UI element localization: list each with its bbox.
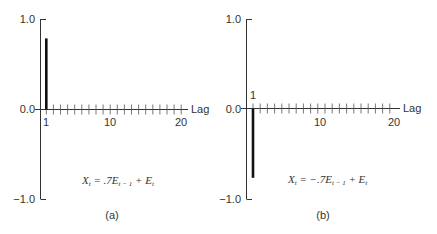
formula-a: Xt = .7Et − 1 + Et xyxy=(81,174,155,188)
caption-b: (b) xyxy=(316,209,329,221)
ytick-b-bot: −1.0 xyxy=(219,193,241,205)
xtick-b-10: 10 xyxy=(314,116,326,128)
ytick-a-top: 1.0 xyxy=(20,13,35,25)
xtick-a-1: 1 xyxy=(43,116,49,128)
ytick-a-bot: −1.0 xyxy=(13,193,35,205)
xlabel-b: Lag xyxy=(403,102,421,114)
caption-a: (a) xyxy=(105,209,118,221)
ytick-b-mid: 0.0 xyxy=(226,103,241,115)
panel-a: 1.0 0.0 −1.0 Lag 1 10 20 Xt = .7Et − 1 +… xyxy=(13,13,209,221)
xtick-b-20: 20 xyxy=(388,116,400,128)
formula-b: Xt = −.7Et − 1 + Et xyxy=(287,173,368,187)
xtick-a-20: 20 xyxy=(175,116,187,128)
xtick-a-10: 10 xyxy=(104,116,116,128)
panel-b: 1.0 0.0 −1.0 Lag 1 10 20 Xt = −.7Et − 1 … xyxy=(219,13,421,221)
ytick-a-mid: 0.0 xyxy=(20,103,35,115)
acf-bar-b-lag1 xyxy=(252,109,255,178)
xtick-b-1: 1 xyxy=(250,89,256,101)
ytick-b-top: 1.0 xyxy=(226,13,241,25)
acf-figure: 1.0 0.0 −1.0 Lag 1 10 20 Xt = .7Et − 1 +… xyxy=(0,0,437,234)
xlabel-a: Lag xyxy=(191,103,209,115)
acf-bar-a-lag1 xyxy=(45,38,48,109)
